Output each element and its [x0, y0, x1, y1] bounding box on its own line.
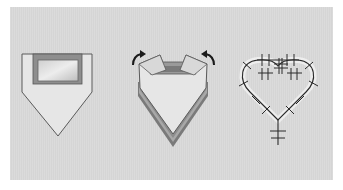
- step-3-sutured-heart: [239, 54, 318, 145]
- diagram-canvas: [0, 0, 343, 190]
- step-2-folded-graft: [133, 50, 214, 147]
- step-1-graft: [22, 54, 92, 136]
- window-cutout: [38, 60, 78, 81]
